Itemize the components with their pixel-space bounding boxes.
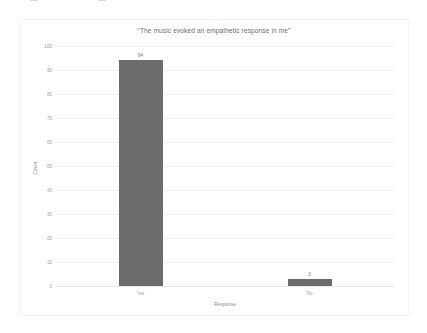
- y-tick-label: 10: [47, 260, 52, 265]
- gridline: [56, 70, 394, 71]
- gridline: [56, 118, 394, 119]
- bar-no[interactable]: 3No: [288, 279, 332, 286]
- gridline: [56, 190, 394, 191]
- y-tick-label: 90: [47, 68, 52, 73]
- gridline: [56, 166, 394, 167]
- y-tick-label: 70: [47, 116, 52, 121]
- y-tick-label: 40: [47, 188, 52, 193]
- gridline: [56, 238, 394, 239]
- y-tick-label: 0: [49, 284, 52, 289]
- gridline: [56, 94, 394, 95]
- y-tick-label: 60: [47, 140, 52, 145]
- y-tick-label: 100: [44, 44, 52, 49]
- gridline: [56, 214, 394, 215]
- x-tick-label-no: No: [307, 291, 313, 296]
- x-tick-label-yes: Yes: [137, 291, 145, 296]
- y-tick-label: 80: [47, 92, 52, 97]
- x-axis-title: Response: [56, 302, 394, 307]
- gridline: [56, 46, 394, 47]
- bar-value-label: 94: [138, 53, 143, 58]
- chart-title: “The music evoked an empathetic response…: [20, 27, 408, 34]
- bar-yes[interactable]: 94Yes: [119, 60, 163, 286]
- chart-panel: “The music evoked an empathetic response…: [19, 19, 409, 316]
- gridline: [56, 262, 394, 263]
- gridline: [56, 286, 394, 287]
- plot-area: 010203040506070809010094Yes3No: [56, 46, 394, 286]
- y-axis-title: Count: [33, 161, 38, 174]
- y-tick-label: 50: [47, 164, 52, 169]
- y-tick-label: 30: [47, 212, 52, 217]
- y-tick-label: 20: [47, 236, 52, 241]
- bar-value-label: 3: [308, 272, 311, 277]
- top-artifact-0: ▬: [30, 0, 38, 3]
- gridline: [56, 142, 394, 143]
- top-artifact-1: ▬: [98, 0, 106, 3]
- top-edge-artifacts: ▬▬: [0, 0, 427, 8]
